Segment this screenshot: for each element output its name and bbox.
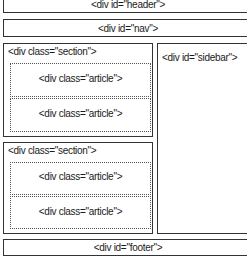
header-label: <div id="header"> [4, 0, 247, 10]
section-label: <div class="section"> [8, 145, 96, 156]
footer-label: <div id="footer"> [4, 242, 247, 253]
article-label: <div class="article"> [11, 171, 150, 182]
section-label: <div class="section"> [8, 46, 96, 57]
section-box-2: <div class="section"> <div class="articl… [3, 142, 153, 234]
article-label: <div class="article"> [11, 206, 150, 217]
article-box: <div class="article"> [10, 98, 151, 132]
sidebar-label: <div id="sidebar"> [162, 52, 237, 63]
article-box: <div class="article"> [10, 63, 151, 97]
section-box-1: <div class="section"> <div class="articl… [3, 43, 153, 137]
article-box: <div class="article"> [10, 196, 151, 229]
nav-box: <div id="nav"> [3, 19, 247, 37]
sidebar-box: <div id="sidebar"> [157, 43, 247, 234]
article-label: <div class="article"> [11, 73, 150, 84]
nav-label: <div id="nav"> [4, 23, 247, 34]
article-label: <div class="article"> [11, 108, 150, 119]
header-box: <div id="header"> [3, 0, 247, 13]
article-box: <div class="article"> [10, 162, 151, 195]
footer-box: <div id="footer"> [3, 239, 247, 256]
